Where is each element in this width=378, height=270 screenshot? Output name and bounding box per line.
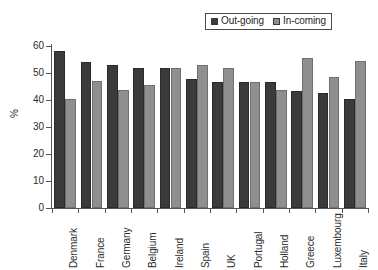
bar-group bbox=[186, 46, 208, 208]
x-axis-label: Luxembourg bbox=[333, 213, 343, 268]
bar-out-going bbox=[239, 82, 250, 208]
y-axis-tick-label: 0 bbox=[18, 203, 44, 213]
x-axis-label: Belgium bbox=[148, 233, 158, 268]
bar-out-going bbox=[81, 62, 92, 208]
bar-out-going bbox=[186, 79, 197, 208]
legend-entry-in-coming: In-coming bbox=[273, 16, 326, 26]
bar-group bbox=[344, 46, 366, 208]
bar-out-going bbox=[160, 68, 171, 208]
x-axis-tick bbox=[157, 209, 158, 213]
bar-in-coming bbox=[92, 81, 103, 208]
bar-group bbox=[54, 46, 76, 208]
bar-group bbox=[212, 46, 234, 208]
bar-out-going bbox=[265, 82, 276, 208]
bar-group bbox=[160, 46, 182, 208]
y-axis-tick-label: 10 bbox=[18, 176, 44, 186]
y-axis-tick-labels: 6050403020100 bbox=[14, 0, 44, 270]
x-axis-label: Italy bbox=[359, 250, 369, 268]
x-axis-tick bbox=[105, 209, 106, 213]
bar-in-coming bbox=[197, 65, 208, 208]
bar-chart: Out-going In-coming 6050403020100 % Denm… bbox=[0, 0, 378, 270]
x-axis-label: Denmark bbox=[69, 228, 79, 268]
bar-in-coming bbox=[355, 61, 366, 208]
y-axis-tick bbox=[46, 181, 52, 182]
x-axis-tick bbox=[263, 209, 264, 213]
bar-in-coming bbox=[223, 68, 234, 208]
x-axis-tick bbox=[78, 209, 79, 213]
x-axis-label: Greece bbox=[306, 236, 316, 268]
x-axis-tick bbox=[210, 209, 211, 213]
legend-label-out-going: Out-going bbox=[221, 16, 264, 26]
y-axis-tick-label: 30 bbox=[18, 122, 44, 132]
bar-group bbox=[265, 46, 287, 208]
bar-group bbox=[107, 46, 129, 208]
bar-in-coming bbox=[144, 85, 155, 208]
bar-in-coming bbox=[302, 58, 313, 208]
y-axis-tick-label: 40 bbox=[18, 95, 44, 105]
y-axis-tick bbox=[46, 127, 52, 128]
x-axis-label: Portugal bbox=[254, 232, 264, 268]
bar-out-going bbox=[212, 82, 223, 208]
legend-swatch-in-coming bbox=[273, 18, 280, 25]
legend-entry-out-going: Out-going bbox=[211, 16, 264, 26]
x-axis-tick bbox=[315, 209, 316, 213]
x-axis-tick bbox=[368, 209, 369, 213]
x-axis-tick bbox=[289, 209, 290, 213]
y-axis-tick-label: 20 bbox=[18, 149, 44, 159]
x-axis-tick bbox=[236, 209, 237, 213]
x-axis-tick bbox=[131, 209, 132, 213]
bar-out-going bbox=[291, 91, 302, 208]
bar-group bbox=[133, 46, 155, 208]
bar-out-going bbox=[107, 65, 118, 208]
bar-out-going bbox=[318, 93, 329, 208]
bar-in-coming bbox=[250, 82, 261, 208]
x-axis-label: Spain bbox=[201, 243, 211, 268]
x-axis-tick bbox=[52, 209, 53, 213]
bar-group bbox=[239, 46, 261, 208]
bar-out-going bbox=[133, 68, 144, 208]
x-axis-label: Germany bbox=[122, 228, 132, 268]
y-axis-tick bbox=[46, 46, 52, 47]
x-axis-label: Holland bbox=[280, 235, 290, 268]
y-axis-tick bbox=[46, 100, 52, 101]
legend-swatch-out-going bbox=[211, 18, 218, 25]
bar-group bbox=[318, 46, 340, 208]
x-axis-label: UK bbox=[227, 254, 237, 268]
y-axis-tick-label: 60 bbox=[18, 41, 44, 51]
bar-group bbox=[81, 46, 103, 208]
x-axis-label: Ireland bbox=[175, 238, 185, 268]
bar-in-coming bbox=[65, 99, 76, 208]
chart-legend: Out-going In-coming bbox=[205, 13, 332, 30]
bar-out-going bbox=[54, 51, 65, 208]
x-axis-label: France bbox=[96, 237, 106, 268]
bar-in-coming bbox=[329, 77, 340, 208]
x-axis-category-labels: DenmarkFranceGermanyBelgiumIrelandSpainU… bbox=[52, 212, 368, 270]
bar-group bbox=[291, 46, 313, 208]
x-axis-tick bbox=[342, 209, 343, 213]
plot-area bbox=[52, 46, 368, 208]
y-axis-tick bbox=[46, 73, 52, 74]
bar-in-coming bbox=[276, 90, 287, 208]
y-axis-title: % bbox=[10, 109, 20, 118]
legend-label-in-coming: In-coming bbox=[283, 16, 326, 26]
bar-in-coming bbox=[118, 90, 129, 208]
y-axis-tick-label: 50 bbox=[18, 68, 44, 78]
x-axis-tick bbox=[184, 209, 185, 213]
y-axis-tick bbox=[46, 154, 52, 155]
bar-in-coming bbox=[171, 68, 182, 208]
bar-out-going bbox=[344, 99, 355, 208]
